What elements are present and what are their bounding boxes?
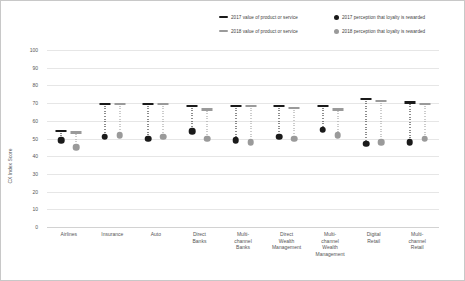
perception-dot-marker xyxy=(406,139,413,146)
perception-dot-marker xyxy=(117,132,124,139)
perception-dot-marker xyxy=(334,132,341,139)
dumbbell-2018 xyxy=(331,50,345,227)
perception-dot-marker xyxy=(378,139,385,146)
perception-dot-marker xyxy=(363,141,370,148)
value-bar-marker xyxy=(201,108,212,110)
dumbbell-2017 xyxy=(229,50,243,227)
perception-dot-marker xyxy=(204,135,211,142)
connector-stem xyxy=(163,103,164,137)
connector-stem xyxy=(235,105,236,140)
dumbbell-2017 xyxy=(359,50,373,227)
y-axis-title: CX Index Score xyxy=(7,126,13,206)
legend-item-2017-perception: 2017 perception that loyalty is rewarded xyxy=(334,15,459,20)
data-cluster xyxy=(185,50,213,227)
value-bar-marker xyxy=(317,105,328,107)
y-axis-tick-label: 80 xyxy=(32,82,38,88)
y-axis-tick-label: 20 xyxy=(32,189,38,195)
dumbbell-2018 xyxy=(287,50,301,227)
value-bar-marker xyxy=(245,105,256,107)
perception-dot-marker xyxy=(232,137,239,144)
connector-stem xyxy=(119,103,120,135)
perception-dot-marker xyxy=(58,137,65,144)
value-bar-marker xyxy=(186,105,197,107)
perception-dot-marker xyxy=(291,135,298,142)
legend-label: 2017 perception that loyalty is rewarded xyxy=(342,15,425,20)
data-cluster xyxy=(273,50,301,227)
cx-index-chart: 2017 value of product or service 2017 pe… xyxy=(0,0,465,281)
perception-dot-marker xyxy=(247,139,254,146)
chart-legend: 2017 value of product or service 2017 pe… xyxy=(219,10,459,38)
connector-stem xyxy=(366,98,367,144)
connector-stem xyxy=(424,103,425,138)
x-axis-tick-label: Multi-channelBanks xyxy=(221,231,265,251)
dumbbell-2017 xyxy=(403,50,417,227)
dumbbell-2018 xyxy=(374,50,388,227)
value-bar-marker xyxy=(99,103,110,105)
data-cluster xyxy=(403,50,431,227)
dumbbell-2017 xyxy=(272,50,286,227)
dumbbell-2017 xyxy=(185,50,199,227)
dot-marker-icon xyxy=(334,29,339,34)
value-bar-marker xyxy=(289,107,300,109)
dumbbell-2017 xyxy=(54,50,68,227)
legend-label: 2018 perception that loyalty is rewarded xyxy=(342,29,425,34)
legend-item-2018-perception: 2018 perception that loyalty is rewarded xyxy=(334,29,459,34)
connector-stem xyxy=(206,108,207,138)
y-axis: CX Index Score 0102030405060708090100 xyxy=(1,45,43,232)
value-bar-marker xyxy=(230,105,241,107)
x-axis: AirlinesInsuranceAutoDirectBanksMulti-ch… xyxy=(47,231,439,277)
dumbbell-2018 xyxy=(156,50,170,227)
x-axis-tick-label: Auto xyxy=(134,231,178,238)
y-axis-tick-label: 70 xyxy=(32,100,38,106)
value-bar-marker xyxy=(56,130,67,132)
perception-dot-marker xyxy=(421,135,428,142)
connector-stem xyxy=(294,107,295,139)
connector-stem xyxy=(381,100,382,142)
y-axis-tick-label: 50 xyxy=(32,136,38,142)
x-axis-tick-label: DigitalRetail xyxy=(352,231,396,244)
connector-stem xyxy=(409,101,410,142)
data-cluster xyxy=(142,50,170,227)
dumbbell-2018 xyxy=(69,50,83,227)
y-axis-tick-label: 30 xyxy=(32,171,38,177)
dumbbell-2018 xyxy=(200,50,214,227)
dumbbell-2017 xyxy=(316,50,330,227)
perception-dot-marker xyxy=(276,133,283,140)
dumbbell-2017 xyxy=(98,50,112,227)
gridline xyxy=(47,227,439,228)
connector-stem xyxy=(250,105,251,142)
legend-label: 2018 value of product or service xyxy=(231,29,298,34)
x-axis-tick-label: Multi-channelRetail xyxy=(395,231,439,251)
perception-dot-marker xyxy=(73,144,80,151)
dot-marker-icon xyxy=(334,15,339,20)
data-cluster xyxy=(98,50,126,227)
dumbbell-2017 xyxy=(141,50,155,227)
y-axis-tick-label: 90 xyxy=(32,65,38,71)
perception-dot-marker xyxy=(189,128,196,135)
value-bar-marker xyxy=(376,100,387,102)
perception-dot-marker xyxy=(145,135,152,142)
legend-item-2018-value: 2018 value of product or service xyxy=(219,29,334,34)
line-marker-icon xyxy=(219,30,228,32)
data-cluster xyxy=(316,50,344,227)
perception-dot-marker xyxy=(319,126,326,133)
value-bar-marker xyxy=(274,105,285,107)
connector-stem xyxy=(104,103,105,137)
perception-dot-marker xyxy=(102,133,109,140)
value-bar-marker xyxy=(332,108,343,110)
value-bar-marker xyxy=(114,103,125,105)
value-bar-marker xyxy=(71,131,82,133)
value-bar-marker xyxy=(419,103,430,105)
plot-area xyxy=(47,50,439,227)
y-axis-tick-label: 40 xyxy=(32,153,38,159)
value-bar-marker xyxy=(404,101,415,103)
x-axis-tick-label: Multi-channelWealthManagement xyxy=(308,231,352,257)
data-cluster xyxy=(229,50,257,227)
perception-dot-marker xyxy=(160,133,167,140)
connector-stem xyxy=(148,103,149,138)
dumbbell-2018 xyxy=(418,50,432,227)
connector-stem xyxy=(279,105,280,137)
y-axis-tick-label: 60 xyxy=(32,118,38,124)
dumbbell-2018 xyxy=(113,50,127,227)
value-bar-marker xyxy=(158,103,169,105)
